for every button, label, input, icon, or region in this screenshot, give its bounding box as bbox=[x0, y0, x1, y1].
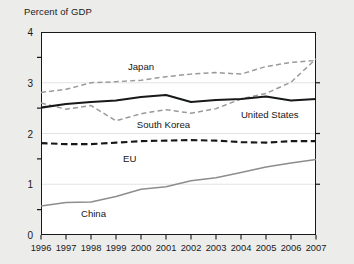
x-tick-label: 1999 bbox=[106, 243, 127, 253]
x-tick-label: 2007 bbox=[306, 243, 327, 253]
chart-canvas bbox=[0, 0, 354, 264]
x-tick-label: 2003 bbox=[206, 243, 227, 253]
series-label-eu: EU bbox=[123, 152, 136, 163]
x-tick-label: 2004 bbox=[231, 243, 252, 253]
x-tick-label: 2005 bbox=[256, 243, 277, 253]
x-tick-label: 2001 bbox=[156, 243, 177, 253]
series-label-china: China bbox=[81, 208, 106, 219]
series-line-united-states bbox=[41, 95, 316, 108]
series-line-china bbox=[41, 159, 316, 206]
axis-ticks bbox=[37, 57, 320, 239]
x-tick-label: 2006 bbox=[281, 243, 302, 253]
y-tick-label: 3 bbox=[11, 77, 33, 88]
y-tick-label: 0 bbox=[11, 230, 33, 241]
x-tick-label: 1996 bbox=[31, 243, 52, 253]
x-tick-label: 2000 bbox=[131, 243, 152, 253]
y-tick-label: 2 bbox=[11, 128, 33, 139]
y-tick-label: 4 bbox=[11, 27, 33, 38]
chart-figure: Percent of GDP 01234 1996199719981999200… bbox=[0, 0, 354, 264]
series-line-japan bbox=[41, 60, 316, 92]
series-line-eu bbox=[41, 140, 316, 144]
x-tick-label: 1998 bbox=[81, 243, 102, 253]
x-tick-label: 2002 bbox=[181, 243, 202, 253]
series-label-united-states: United States bbox=[241, 109, 299, 120]
series-label-south-korea: South Korea bbox=[137, 119, 190, 130]
x-tick-label: 1997 bbox=[56, 243, 77, 253]
series-label-japan: Japan bbox=[128, 61, 154, 72]
y-tick-label: 1 bbox=[11, 179, 33, 190]
